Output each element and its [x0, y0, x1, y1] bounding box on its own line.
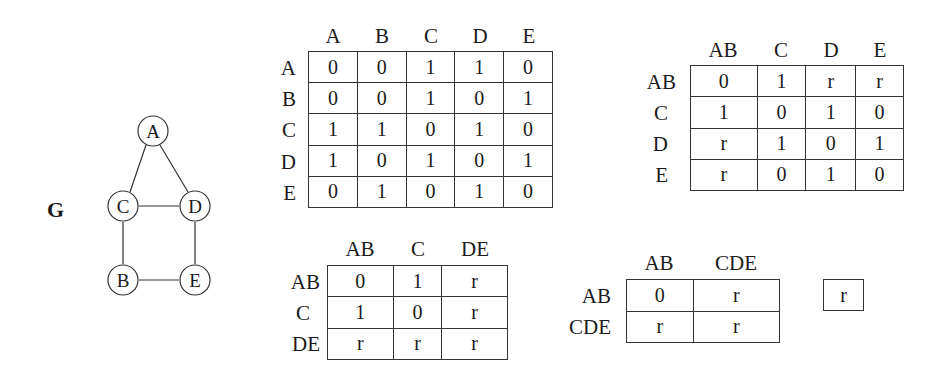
cell: r	[442, 297, 508, 328]
cell: 1	[328, 297, 394, 328]
col-header: AB	[629, 251, 689, 276]
cell: r	[691, 159, 758, 190]
cell: 0	[627, 280, 694, 312]
node-b-label: B	[117, 270, 130, 291]
edge-a-c	[130, 145, 146, 192]
cell: r	[824, 280, 864, 311]
table-row: 0 1 r	[328, 266, 508, 297]
graph-g: A C D B E	[0, 0, 260, 384]
cell: 0	[856, 159, 904, 190]
cell: 1	[393, 266, 442, 297]
cell: 0	[856, 97, 904, 128]
cell: 1	[309, 145, 358, 176]
row-header: CDE	[548, 315, 611, 340]
cell: r	[691, 128, 758, 159]
row-header: C	[630, 101, 668, 126]
table-row: r	[824, 280, 864, 311]
cell: 0	[406, 176, 455, 207]
cell: 1	[357, 176, 406, 207]
cell: 0	[309, 176, 358, 207]
cell: 0	[393, 297, 442, 328]
col-header: AB	[693, 38, 753, 63]
col-header: C	[388, 237, 448, 262]
col-header: DE	[445, 237, 505, 262]
reduced-table-2x2: 0 r r r	[626, 279, 780, 343]
cell: 0	[504, 52, 553, 83]
cell: r	[442, 266, 508, 297]
cell: 1	[504, 83, 553, 114]
reduced-table-4x4: 0 1 r r 1 0 1 0 r 1 0 1 r 0 1 0	[690, 65, 904, 191]
row-header: C	[270, 301, 310, 326]
cell: 1	[455, 176, 504, 207]
cell: 0	[455, 145, 504, 176]
col-header: E	[499, 24, 559, 49]
cell: r	[806, 66, 856, 97]
cell: 1	[406, 83, 455, 114]
cell: 0	[504, 114, 553, 145]
cell: 1	[856, 128, 904, 159]
cell: 0	[357, 52, 406, 83]
cell: 1	[806, 159, 856, 190]
table-row: r 0 1 0	[691, 159, 904, 190]
cell: 1	[691, 97, 758, 128]
table-row: 1 1 0 1 0	[309, 114, 553, 145]
cell: r	[442, 328, 508, 359]
table-row: 0 1 r r	[691, 66, 904, 97]
row-header: A	[270, 56, 296, 81]
cell: 0	[504, 176, 553, 207]
cell: r	[693, 311, 779, 343]
table-row: 1 0 1 0	[691, 97, 904, 128]
row-header: AB	[270, 270, 320, 295]
cell: 0	[309, 52, 358, 83]
cell: 0	[455, 83, 504, 114]
row-header: DE	[270, 332, 320, 357]
table-row: 1 0 1 0 1	[309, 145, 553, 176]
cell: 0	[757, 159, 806, 190]
row-header: E	[270, 181, 296, 206]
cell: r	[856, 66, 904, 97]
row-header: D	[270, 150, 296, 175]
cell: 1	[757, 128, 806, 159]
cell: 1	[406, 145, 455, 176]
table-row: 0 1 0 1 0	[309, 176, 553, 207]
reduced-table-1x1: r	[823, 279, 864, 311]
table-row: 0 0 1 0 1	[309, 83, 553, 114]
cell: 1	[309, 114, 358, 145]
node-c-label: C	[117, 196, 130, 217]
table-row: 1 0 r	[328, 297, 508, 328]
table-row: 0 r	[627, 280, 780, 312]
node-a-label: A	[146, 121, 160, 142]
reduced-table-3x3: 0 1 r 1 0 r r r r	[327, 265, 508, 360]
cell: 0	[691, 66, 758, 97]
cell: 0	[757, 97, 806, 128]
table-row: r 1 0 1	[691, 128, 904, 159]
table-row: r r	[627, 311, 780, 343]
row-header: D	[630, 132, 668, 157]
node-d-label: D	[188, 196, 202, 217]
row-header: AB	[555, 284, 611, 309]
cell: 1	[406, 52, 455, 83]
col-header: CDE	[706, 251, 766, 276]
node-e-label: E	[189, 270, 201, 291]
row-header: B	[270, 87, 296, 112]
cell: 1	[806, 97, 856, 128]
col-header: E	[850, 38, 910, 63]
cell: r	[328, 328, 394, 359]
cell: 1	[455, 52, 504, 83]
col-header: AB	[330, 237, 390, 262]
cell: r	[693, 280, 779, 312]
cell: 0	[357, 83, 406, 114]
row-header: C	[270, 118, 296, 143]
cell: 0	[357, 145, 406, 176]
edge-a-d	[160, 145, 188, 192]
row-header: E	[630, 163, 668, 188]
cell: 0	[806, 128, 856, 159]
cell: 1	[455, 114, 504, 145]
adjacency-table: 0 0 1 1 0 0 0 1 0 1 1 1 0 1 0 1 0 1 0 1	[308, 51, 553, 208]
row-header: AB	[630, 70, 676, 95]
cell: 0	[309, 83, 358, 114]
table-row: 0 0 1 1 0	[309, 52, 553, 83]
cell: r	[393, 328, 442, 359]
cell: r	[627, 311, 694, 343]
cell: 0	[406, 114, 455, 145]
